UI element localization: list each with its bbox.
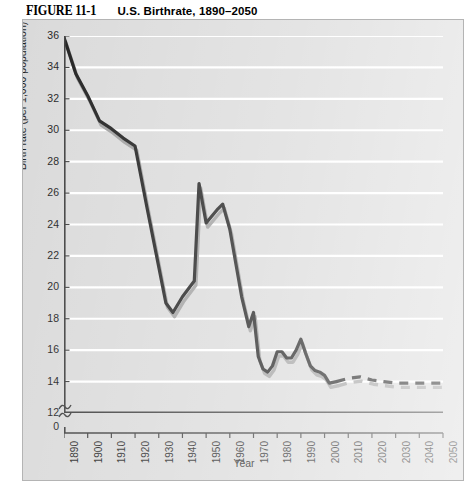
y-axis-tick-label: 18 xyxy=(29,312,59,324)
data-series xyxy=(64,38,443,388)
figure-title: U.S. Birthrate, 1890–2050 xyxy=(117,5,257,17)
y-axis-tick-label: 12 xyxy=(29,406,59,418)
y-axis-title: Birth rate (per 1,000 population) xyxy=(22,19,28,170)
y-axis-tick-label: 32 xyxy=(29,92,59,104)
y-axis-tick-label: 34 xyxy=(29,60,59,72)
x-axis-baseline xyxy=(64,427,447,443)
y-axis-tick-label: 28 xyxy=(29,155,59,167)
figure-caption: FIGURE 11-1 U.S. Birthrate, 1890–2050 xyxy=(26,2,257,20)
y-axis-tick-label: 36 xyxy=(29,29,59,41)
figure-number: FIGURE 11-1 xyxy=(26,2,96,19)
y-axis-tick-label: 20 xyxy=(29,280,59,292)
y-axis-tick-label: 22 xyxy=(29,249,59,261)
x-axis-title: Year xyxy=(23,457,464,469)
y-axis-tick-label: 30 xyxy=(29,123,59,135)
birthrate-line-chart xyxy=(64,36,443,413)
y-axis-tick-label: 16 xyxy=(29,343,59,355)
y-axis-zero-label: 0 xyxy=(29,420,59,432)
y-axis-tick-label: 24 xyxy=(29,218,59,230)
chart-plot-area xyxy=(64,36,443,413)
grid-lines xyxy=(64,36,443,413)
y-axis-break-symbol xyxy=(57,403,73,425)
figure-frame: 121416182022242628303234360 189019001910… xyxy=(22,19,464,481)
y-axis-tick-label: 26 xyxy=(29,186,59,198)
y-axis-tick-label: 14 xyxy=(29,375,59,387)
